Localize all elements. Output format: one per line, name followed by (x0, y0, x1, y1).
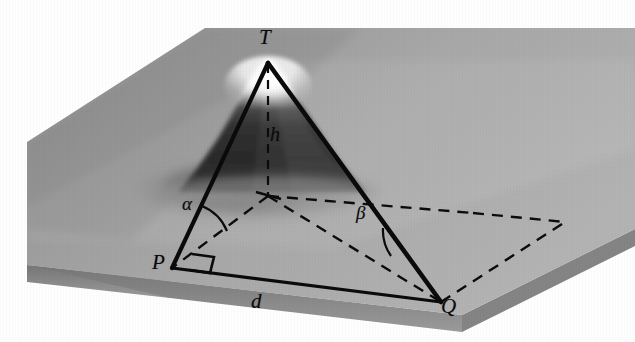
label-apex-T: T (259, 27, 271, 48)
trigonometry-figure (0, 0, 635, 342)
label-angle-alpha: α (182, 194, 192, 213)
label-height-h: h (270, 124, 280, 144)
figure-page: EXERCISE 9: (0, 0, 635, 342)
label-angle-beta: β (356, 203, 365, 222)
label-point-Q: Q (441, 296, 456, 317)
label-distance-d: d (251, 291, 262, 312)
label-point-P: P (152, 252, 165, 273)
